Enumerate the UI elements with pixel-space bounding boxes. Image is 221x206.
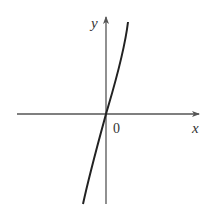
function-graph: y x 0 [0, 0, 221, 206]
origin-label: 0 [113, 121, 120, 136]
y-axis-label: y [89, 15, 98, 31]
x-axis-label: x [191, 120, 199, 136]
